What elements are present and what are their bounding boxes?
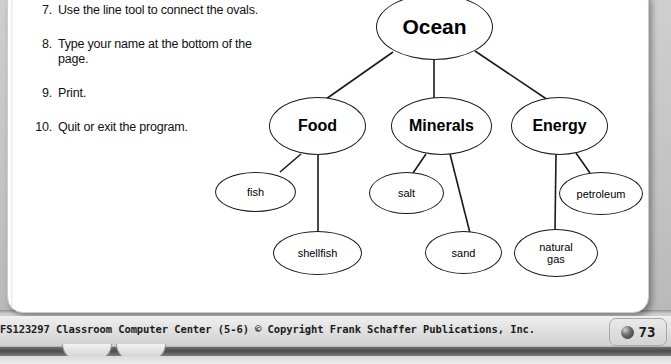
node-label: salt bbox=[398, 187, 415, 199]
node-label: fish bbox=[247, 186, 264, 198]
node-label: Ocean bbox=[402, 15, 466, 39]
node-label: shellfish bbox=[298, 247, 338, 259]
node-label: sand bbox=[452, 247, 476, 259]
node-label: Energy bbox=[532, 117, 586, 135]
copyright-credit: FS123297 Classroom Computer Center (5-6)… bbox=[0, 323, 535, 335]
node-label: Food bbox=[298, 117, 337, 135]
node-shellfish[interactable]: shellfish bbox=[273, 231, 362, 275]
node-salt[interactable]: salt bbox=[369, 172, 444, 214]
node-label: petroleum bbox=[577, 188, 626, 200]
node-food[interactable]: Food bbox=[269, 97, 366, 155]
edge-ocean-food bbox=[326, 52, 393, 99]
node-label: natural gas bbox=[539, 241, 573, 265]
edge-minerals-salt bbox=[413, 154, 426, 173]
node-minerals[interactable]: Minerals bbox=[391, 97, 492, 155]
edge-minerals-sand bbox=[450, 154, 470, 233]
node-fish[interactable]: fish bbox=[215, 172, 296, 212]
binding-light-bar bbox=[0, 356, 671, 364]
worksheet-page: 7. Use the line tool to connect the oval… bbox=[7, 0, 649, 313]
sphere-icon bbox=[621, 326, 634, 339]
screenshot-root: 7. Use the line tool to connect the oval… bbox=[0, 0, 671, 364]
edge-energy-petroleum bbox=[576, 153, 590, 173]
edge-food-fish bbox=[280, 154, 301, 172]
edge-ocean-energy bbox=[475, 51, 548, 100]
page-number-badge: 73 bbox=[609, 318, 667, 346]
node-petroleum[interactable]: petroleum bbox=[559, 172, 643, 215]
node-energy[interactable]: Energy bbox=[511, 97, 608, 155]
node-natural-gas[interactable]: natural gas bbox=[514, 229, 598, 277]
concept-map-diagram: Ocean Food Minerals Energy fish shellfis… bbox=[8, 0, 648, 298]
page-number: 73 bbox=[639, 324, 656, 340]
node-sand[interactable]: sand bbox=[425, 231, 502, 274]
node-label: Minerals bbox=[409, 117, 474, 135]
edge-energy-natural-gas bbox=[555, 154, 556, 230]
